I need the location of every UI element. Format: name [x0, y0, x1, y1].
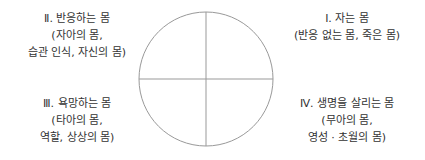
quadrant-iii-label: Ⅲ. 욕망하는 몸 (타아의 몸, 역할, 상상의 몸) — [2, 95, 152, 146]
quadrant-iii-line3: 역할, 상상의 몸) — [2, 129, 152, 146]
quadrant-ii-line2: (자아의 몸, — [2, 27, 152, 44]
quadrant-iv-line3: 영성 · 초월의 몸) — [268, 129, 425, 146]
quadrant-ii-label: Ⅱ. 반응하는 몸 (자아의 몸, 습관 인식, 자신의 몸) — [2, 10, 152, 61]
quadrant-i-label: Ⅰ. 자는 몸 (반응 없는 몸, 죽은 몸) — [268, 10, 425, 44]
quadrant-iv-title: Ⅳ. 생명을 살리는 몸 — [268, 95, 425, 112]
quadrant-iii-title: Ⅲ. 욕망하는 몸 — [2, 95, 152, 112]
quadrant-ii-line3: 습관 인식, 자신의 몸) — [2, 44, 152, 61]
quadrant-ii-title: Ⅱ. 반응하는 몸 — [2, 10, 152, 27]
quadrant-i-line2: (반응 없는 몸, 죽은 몸) — [268, 27, 425, 44]
quadrant-iii-line2: (타아의 몸, — [2, 112, 152, 129]
quadrant-iv-line2: (무아의 몸, — [268, 112, 425, 129]
quadrant-i-title: Ⅰ. 자는 몸 — [268, 10, 425, 27]
quadrant-iv-label: Ⅳ. 생명을 살리는 몸 (무아의 몸, 영성 · 초월의 몸) — [268, 95, 425, 146]
